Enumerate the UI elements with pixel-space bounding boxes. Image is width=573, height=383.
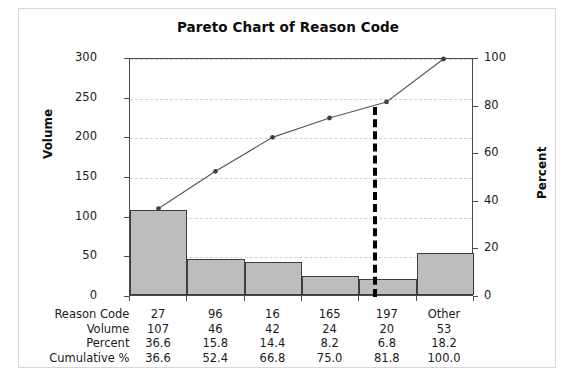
y-axis-right-tick-0: 0: [484, 288, 491, 302]
table-pad: [473, 336, 557, 351]
chart-figure: Pareto Chart of Reason Code Volume Perce…: [18, 8, 556, 368]
table-cell: 197: [358, 307, 415, 322]
x-axis-tickmark: [416, 296, 417, 301]
table-cell: Other: [415, 307, 472, 322]
table-cell: 20: [358, 322, 415, 337]
y-axis-left-tick-50: 50: [82, 248, 97, 262]
cumulative-line: [159, 59, 444, 209]
table-cell: 165: [301, 307, 358, 322]
table-pad: [473, 351, 557, 366]
y-axis-left-tick-250: 250: [75, 90, 97, 104]
table-row: Percent36.615.814.48.26.818.2: [19, 336, 557, 351]
x-axis-tickmark: [301, 296, 302, 301]
cumulative-marker-96: [213, 169, 218, 174]
y-axis-right-tick-80: 80: [484, 98, 499, 112]
table-cell: 15.8: [187, 336, 244, 351]
cumulative-marker-197: [384, 100, 389, 105]
x-axis-tickmark: [244, 296, 245, 301]
x-axis-tickmark: [473, 296, 474, 301]
table-cell: 81.8: [358, 351, 415, 366]
table-cell: 66.8: [244, 351, 301, 366]
table-cell: 14.4: [244, 336, 301, 351]
y-axis-left-tick-200: 200: [75, 129, 97, 143]
table-cell: 6.8: [358, 336, 415, 351]
cumulative-marker-Other: [441, 57, 446, 62]
cumulative-marker-16: [270, 135, 275, 140]
table-row-label: Reason Code: [19, 307, 129, 322]
category-data-table: Reason Code279616165197OtherVolume107464…: [19, 307, 557, 365]
table-row: Reason Code279616165197Other: [19, 307, 557, 322]
data-table: Reason Code279616165197OtherVolume107464…: [19, 307, 557, 365]
table-row: Volume1074642242053: [19, 322, 557, 337]
y-axis-right-tickmark: [473, 153, 478, 154]
y-axis-right-tick-40: 40: [484, 193, 499, 207]
x-axis-tickmark: [186, 296, 187, 301]
table-pad: [473, 307, 557, 322]
x-axis-tickmark: [129, 296, 130, 301]
table-row-label: Percent: [19, 336, 129, 351]
table-cell: 16: [244, 307, 301, 322]
table-cell: 107: [129, 322, 186, 337]
table-cell: 52.4: [187, 351, 244, 366]
y-axis-right-tickmark: [473, 106, 478, 107]
cumulative-marker-165: [327, 116, 332, 121]
table-row-label: Volume: [19, 322, 129, 337]
table-row: Cumulative %36.652.466.875.081.8100.0: [19, 351, 557, 366]
table-cell: 53: [415, 322, 472, 337]
table-cell: 18.2: [415, 336, 472, 351]
x-axis-tickmark: [358, 296, 359, 301]
table-cell: 42: [244, 322, 301, 337]
y-axis-right-tickmark: [473, 201, 478, 202]
y-axis-left-tick-150: 150: [75, 169, 97, 183]
y-axis-right-label: Percent: [535, 147, 549, 199]
cumulative-line-series: [130, 59, 472, 295]
y-axis-left-tick-0: 0: [90, 288, 97, 302]
table-cell: 96: [187, 307, 244, 322]
table-cell: 75.0: [301, 351, 358, 366]
table-cell: 8.2: [301, 336, 358, 351]
y-axis-right-tick-100: 100: [484, 50, 506, 64]
table-cell: 46: [187, 322, 244, 337]
y-axis-right-tickmark: [473, 248, 478, 249]
eighty-percent-reference-line: [373, 107, 377, 297]
y-axis-left-tick-100: 100: [75, 209, 97, 223]
chart-title: Pareto Chart of Reason Code: [19, 19, 557, 35]
plot-area: [129, 58, 473, 296]
table-cell: 36.6: [129, 351, 186, 366]
table-row-label: Cumulative %: [19, 351, 129, 366]
table-cell: 27: [129, 307, 186, 322]
table-cell: 100.0: [415, 351, 472, 366]
table-cell: 36.6: [129, 336, 186, 351]
y-axis-right-tick-20: 20: [484, 240, 499, 254]
cumulative-marker-27: [156, 206, 161, 211]
y-axis-left-label: Volume: [41, 109, 55, 159]
table-pad: [473, 322, 557, 337]
y-axis-left-tick-300: 300: [75, 50, 97, 64]
table-cell: 24: [301, 322, 358, 337]
y-axis-right-tickmark: [473, 58, 478, 59]
y-axis-right-tick-60: 60: [484, 145, 499, 159]
